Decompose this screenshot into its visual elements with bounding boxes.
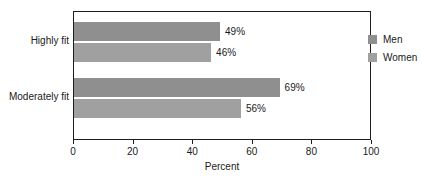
x-tick-mark-80: [311, 140, 312, 144]
x-tick-label-60: 60: [246, 146, 257, 157]
legend-label-women: Women: [383, 52, 417, 63]
bar-highly-fit-women: [74, 43, 211, 62]
x-tick-mark-40: [192, 140, 193, 144]
x-tick-label-100: 100: [363, 146, 380, 157]
clipped-caption-text: [24, 0, 364, 1]
category-label-moderately-fit: Moderately fit: [9, 92, 69, 102]
chart-legend: Men Women: [368, 32, 422, 68]
bar-moderately-fit-men: [74, 78, 280, 97]
legend-item-women: Women: [368, 50, 422, 65]
value-label-highly-fit-men: 49%: [225, 27, 245, 37]
legend-item-men: Men: [368, 32, 422, 47]
legend-swatch-women-icon: [368, 53, 377, 62]
x-tick-mark-60: [252, 140, 253, 144]
x-tick-label-80: 80: [306, 146, 317, 157]
category-axis-labels: Highly fit Moderately fit: [0, 11, 69, 140]
x-tick-mark-0: [73, 140, 74, 144]
legend-label-men: Men: [383, 34, 402, 45]
x-tick-label-0: 0: [70, 146, 76, 157]
value-label-moderately-fit-women: 56%: [246, 104, 266, 114]
x-tick-mark-100: [371, 140, 372, 144]
bar-moderately-fit-women: [74, 99, 241, 118]
value-label-moderately-fit-men: 69%: [285, 83, 305, 93]
bar-highly-fit-men: [74, 22, 220, 41]
legend-swatch-men-icon: [368, 35, 377, 44]
chart-plot-area: 49% 46% 69% 56% Men Women: [73, 11, 371, 140]
x-tick-label-40: 40: [187, 146, 198, 157]
x-tick-mark-20: [133, 140, 134, 144]
category-label-highly-fit: Highly fit: [31, 36, 69, 46]
value-label-highly-fit-women: 46%: [216, 48, 236, 58]
x-axis-title: Percent: [73, 161, 371, 172]
x-tick-label-20: 20: [127, 146, 138, 157]
